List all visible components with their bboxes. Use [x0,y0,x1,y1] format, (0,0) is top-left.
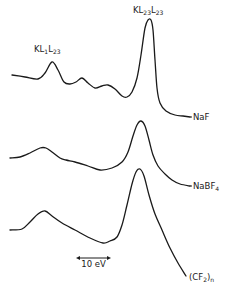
scale-bar-left-arrowhead-icon [76,256,80,260]
energy-scale-bar: 10 eV [76,256,111,269]
scale-bar-label: 10 eV [81,259,106,269]
naf-label: NaF [193,112,210,122]
series-label-naf: NaF [190,112,210,122]
kl1l23-peak-annotation: KL1L23 [34,44,61,55]
nabf4-spectrum-curve [10,121,190,186]
series-label-cf2n: (CF2)n [189,272,214,283]
series-label-nabf4: NaBF4 [190,181,219,192]
auger-spectra-chart: KL1L23 KL23L23 NaF NaBF4 (CF2)n 10 eV [0,0,228,286]
naf-spectrum-curve [12,19,190,117]
kl23l23-peak-annotation: KL23L23 [133,5,164,16]
nabf4-label: NaBF4 [193,181,219,192]
scale-bar-right-arrowhead-icon [107,256,111,260]
cf2n-label: (CF2)n [189,272,214,283]
